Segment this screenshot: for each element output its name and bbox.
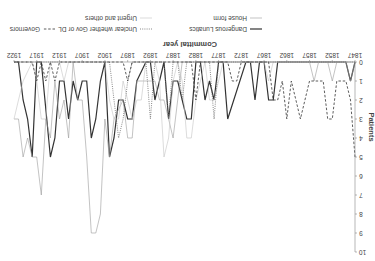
patients-line-chart: 012345678910 184718521857186218671872187… [0,0,375,261]
x-tick-label: 1907 [75,52,90,59]
x-tick-label: 1847 [347,52,362,59]
x-tick-label: 1852 [325,52,340,59]
y-tick-label: 5 [359,154,363,161]
x-tick-label: 1917 [29,52,44,59]
x-axis-title: Committal year [163,40,217,49]
y-tick-label: 10 [359,249,367,256]
x-axis: 1847185218571862186718721877188218871892… [6,52,362,62]
legend: House formDangerous LunaticsUrgent and o… [9,14,262,33]
x-tick-label: 1892 [143,52,158,59]
legend-label: Urgent and others [84,14,137,22]
y-axis: 012345678910 [355,59,366,256]
x-tick-label: 1912 [52,52,67,59]
legend-label: House form [213,15,247,22]
x-tick-label: 1887 [166,52,181,59]
x-tick-label: 1882 [188,52,203,59]
legend-label: Unclear whether Gov or DL [58,26,137,33]
y-tick-label: 9 [359,230,363,237]
x-tick-label: 1902 [97,52,112,59]
y-tick-label: 3 [359,116,363,123]
x-tick-label: 1857 [302,52,317,59]
y-tick-label: 4 [359,135,363,142]
x-tick-label: 1867 [256,52,271,59]
y-tick-label: 6 [359,173,363,180]
y-tick-label: 1 [359,78,363,85]
x-tick-label: 1862 [279,52,294,59]
legend-item: Unclear whether Gov or DL [58,26,152,33]
legend-label: Dangerous Lunatics [188,25,247,33]
legend-item: Urgent and others [84,14,152,22]
legend-item: Governors [9,26,55,33]
y-tick-label: 2 [359,97,363,104]
chart-stage: 012345678910 184718521857186218671872187… [0,0,375,261]
legend-item: Dangerous Lunatics [188,25,262,33]
legend-label: Governors [9,26,40,33]
y-tick-label: 8 [359,211,363,218]
x-tick-label: 1877 [211,52,226,59]
x-tick-label: 1922 [6,52,21,59]
series-line-unclear-whether-gov-or-dl [14,62,355,138]
y-tick-label: 7 [359,192,363,199]
plot-lines [14,62,355,233]
x-tick-label: 1872 [234,52,249,59]
legend-item: House form [213,15,262,22]
y-tick-label: 0 [359,59,363,66]
y-axis-title: Patients [367,112,375,141]
x-tick-label: 1897 [120,52,135,59]
